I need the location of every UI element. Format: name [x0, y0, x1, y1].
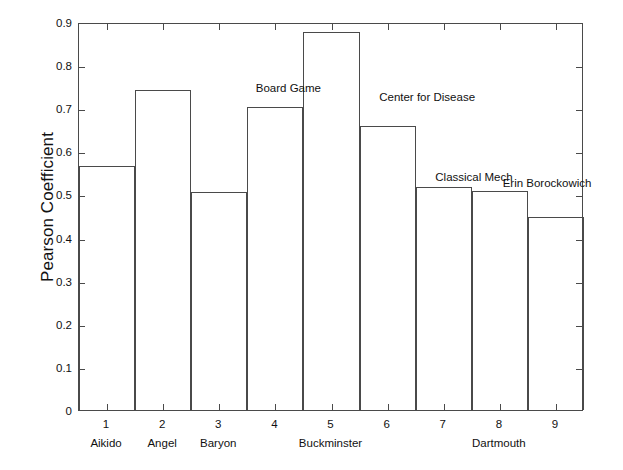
- bar-annotation: Erin Borockowich: [503, 177, 592, 189]
- x-tick-mark: [332, 24, 333, 30]
- x-tick-label: 9: [532, 418, 578, 430]
- x-tick-mark: [444, 24, 445, 30]
- x-tick-label: 5: [308, 418, 354, 430]
- x-tick-label: 2: [139, 418, 185, 430]
- x-tick-mark: [107, 404, 108, 410]
- x-tick-mark: [444, 404, 445, 410]
- y-tick-label: 0.2: [12, 319, 72, 331]
- y-tick-label: 0.1: [12, 362, 72, 374]
- bar: [247, 107, 303, 410]
- y-tick-label: 0.4: [12, 233, 72, 245]
- x-tick-mark: [556, 404, 557, 410]
- bar-annotation: Classical Mech: [435, 171, 512, 183]
- x-tick-mark: [107, 24, 108, 30]
- bars-layer: [79, 24, 582, 410]
- y-tick-label: 0.3: [12, 276, 72, 288]
- x-tick-mark: [163, 24, 164, 30]
- x-tick-label: 7: [420, 418, 466, 430]
- y-tick-mark: [576, 283, 582, 284]
- x-tick-mark: [500, 24, 501, 30]
- bar: [472, 191, 528, 410]
- y-tick-label: 0.9: [12, 17, 72, 29]
- x-tick-mark: [500, 404, 501, 410]
- bar-annotation: Center for Disease: [379, 91, 475, 103]
- y-tick-label: 0.5: [12, 189, 72, 201]
- x-tick-mark: [163, 404, 164, 410]
- bar: [528, 217, 584, 410]
- y-tick-mark: [576, 196, 582, 197]
- y-tick-mark: [576, 110, 582, 111]
- x-tick-label: 4: [251, 418, 297, 430]
- y-axis-title: Pearson Coefficient: [38, 77, 58, 337]
- y-tick-mark: [576, 67, 582, 68]
- bar-chart-figure: Pearson Coefficient Board GameCenter for…: [0, 0, 623, 470]
- y-tick-mark: [79, 283, 85, 284]
- bar: [191, 192, 247, 410]
- y-tick-mark: [576, 369, 582, 370]
- x-tick-mark: [556, 24, 557, 30]
- x-tick-label: 6: [364, 418, 410, 430]
- y-tick-mark: [79, 326, 85, 327]
- plot-area: Board GameCenter for DiseaseClassical Me…: [78, 23, 583, 411]
- x-tick-mark: [332, 404, 333, 410]
- bar-annotation: Board Game: [256, 82, 321, 94]
- x-tick-label: 3: [195, 418, 241, 430]
- x-group-label: Buckminster: [251, 437, 411, 449]
- y-tick-mark: [576, 240, 582, 241]
- y-tick-label: 0: [12, 405, 72, 417]
- bar: [79, 166, 135, 410]
- y-tick-label: 0.6: [12, 146, 72, 158]
- y-tick-mark: [79, 67, 85, 68]
- y-tick-mark: [79, 240, 85, 241]
- y-tick-mark: [576, 153, 582, 154]
- x-tick-mark: [388, 404, 389, 410]
- x-tick-mark: [219, 404, 220, 410]
- x-tick-mark: [219, 24, 220, 30]
- bar: [360, 126, 416, 410]
- x-tick-mark: [275, 404, 276, 410]
- y-tick-mark: [79, 369, 85, 370]
- y-tick-mark: [79, 153, 85, 154]
- bar: [416, 187, 472, 410]
- x-tick-label: 1: [83, 418, 129, 430]
- x-tick-mark: [275, 24, 276, 30]
- bar: [135, 90, 191, 410]
- y-tick-mark: [79, 110, 85, 111]
- x-tick-mark: [388, 24, 389, 30]
- y-tick-mark: [79, 196, 85, 197]
- x-tick-label: 8: [476, 418, 522, 430]
- y-tick-mark: [576, 326, 582, 327]
- x-group-label: Dartmouth: [419, 437, 579, 449]
- y-tick-label: 0.7: [12, 103, 72, 115]
- y-tick-label: 0.8: [12, 60, 72, 72]
